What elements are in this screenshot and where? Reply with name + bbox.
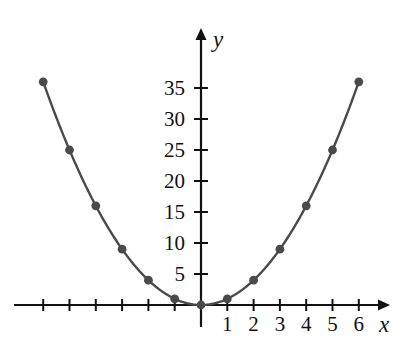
y-tick-label: 30 (164, 107, 185, 131)
data-point-marker (91, 201, 100, 210)
data-point-marker (328, 146, 337, 155)
y-tick-label: 25 (164, 138, 185, 162)
data-point-marker (249, 276, 258, 285)
x-axis-label: x (378, 312, 390, 337)
y-tick-label: 5 (175, 262, 186, 286)
x-tick-label: 3 (275, 312, 286, 336)
y-tick-label: 10 (164, 231, 185, 255)
y-tick-label: 20 (164, 169, 185, 193)
x-tick-label: 5 (327, 312, 338, 336)
y-tick-label: 15 (164, 200, 185, 224)
y-tick-label: 35 (164, 76, 185, 100)
x-tick-label: 6 (354, 312, 365, 336)
parabola-chart: 123456 5101520253035 y x (0, 0, 404, 339)
y-tick-labels: 5101520253035 (164, 76, 185, 286)
data-point-marker (197, 301, 206, 310)
figure-container: 123456 5101520253035 y x (0, 0, 404, 339)
y-axis-label: y (211, 27, 224, 52)
x-tick-label: 4 (301, 312, 312, 336)
data-point-marker (302, 201, 311, 210)
data-point-marker (118, 245, 127, 254)
data-point-marker (170, 294, 179, 303)
data-point-marker (144, 276, 153, 285)
data-point-marker (65, 146, 74, 155)
x-tick-label: 2 (248, 312, 259, 336)
data-point-marker (223, 294, 232, 303)
data-point-marker (39, 77, 48, 86)
x-tick-label: 1 (222, 312, 233, 336)
data-point-marker (354, 77, 363, 86)
data-point-marker (276, 245, 285, 254)
